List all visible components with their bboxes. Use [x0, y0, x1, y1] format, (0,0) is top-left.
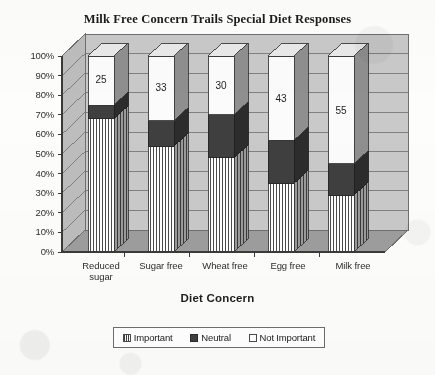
bar-value-label-milk-free: 55 [328, 105, 354, 116]
x-axis-tick-reduced-sugar-line2: sugar [62, 271, 140, 282]
bar-group-egg-free [268, 43, 308, 252]
y-axis-tick-10: 10% [20, 226, 54, 237]
y-axis-tick-100: 100% [20, 50, 54, 61]
y-axis-tick-0: 0% [20, 246, 54, 257]
legend-item-not-important[interactable]: Not Important [249, 332, 316, 343]
y-axis-tick-80: 80% [20, 89, 54, 100]
y-axis-tick-70: 70% [20, 109, 54, 120]
plot-left-wall [62, 34, 85, 252]
not-important-swatch-icon [249, 334, 257, 342]
x-axis-tick-milk-free: Milk free [318, 260, 388, 271]
y-axis-tick-30: 30% [20, 187, 54, 198]
bar-group-milk-free [328, 43, 368, 252]
chart-title: Milk Free Concern Trails Special Diet Re… [0, 12, 435, 27]
bar-group-wheat-free [208, 43, 248, 252]
neutral-swatch-icon [190, 334, 198, 342]
legend-item-neutral[interactable]: Neutral [190, 332, 231, 343]
x-axis-tick-sugar-free: Sugar free [126, 260, 196, 271]
y-axis-tick-20: 20% [20, 207, 54, 218]
legend-item-important[interactable]: Important [123, 332, 173, 343]
y-axis-tick-90: 90% [20, 70, 54, 81]
legend-label-neutral: Neutral [201, 332, 231, 343]
bar-value-label-reduced-sugar: 25 [88, 74, 114, 85]
y-axis-tick-50: 50% [20, 148, 54, 159]
important-swatch-icon [123, 334, 131, 342]
bar-value-label-sugar-free: 33 [148, 82, 174, 93]
chart-legend: Important Neutral Not Important [113, 327, 325, 348]
legend-label-important: Important [134, 332, 173, 343]
chart-plot-area [0, 0, 435, 375]
bar-value-label-wheat-free: 30 [208, 80, 234, 91]
x-axis-tick-wheat-free: Wheat free [190, 260, 260, 271]
bar-value-label-egg-free: 43 [268, 93, 294, 104]
x-axis-tick-egg-free: Egg free [255, 260, 321, 271]
bar-group-sugar-free [148, 43, 188, 252]
x-axis-title: Diet Concern [0, 292, 435, 304]
y-axis-tick-40: 40% [20, 168, 54, 179]
y-axis-tick-60: 60% [20, 128, 54, 139]
legend-label-not-important: Not Important [260, 332, 316, 343]
